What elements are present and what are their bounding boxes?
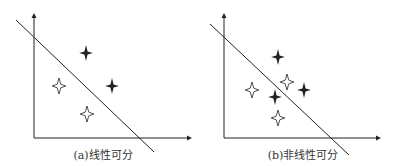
hollow-star-icon: [52, 78, 66, 94]
filled-star-icon: [268, 89, 282, 105]
x-axis-arrow-icon: [376, 136, 381, 141]
hollow-star-icon: [280, 74, 294, 90]
filled-star-icon: [297, 82, 311, 98]
hollow-star-icon: [245, 82, 259, 98]
x-axis-arrow-icon: [187, 136, 192, 141]
y-axis-arrow-icon: [32, 13, 37, 18]
y-axis-arrow-icon: [222, 13, 227, 18]
hollow-star-icon: [271, 110, 285, 126]
hollow-star-icon: [80, 106, 94, 122]
caption-nonlinear-separable: (b)非线性可分: [268, 146, 339, 162]
filled-star-icon: [105, 78, 119, 94]
diagram-canvas: [0, 0, 393, 166]
separating-line: [210, 24, 349, 155]
filled-star-icon: [79, 45, 93, 61]
filled-star-icon: [271, 49, 285, 65]
caption-linear-separable: (a)线性可分: [73, 146, 132, 162]
separating-line: [16, 20, 154, 152]
